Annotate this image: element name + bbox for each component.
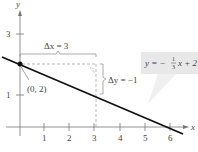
x-tick-label-2: 2 — [67, 133, 72, 143]
x-tick-label-6: 6 — [168, 133, 173, 143]
delta-x-bracket — [20, 51, 96, 57]
step-marker — [90, 68, 96, 72]
x-tick-label-4: 4 — [118, 133, 123, 143]
equation-label: y = − — [144, 58, 166, 68]
delta-y-bracket — [100, 64, 106, 94]
x-axis-label: x — [190, 122, 195, 132]
y-tick-label-1: 1 — [6, 90, 11, 100]
x-tick-label-1: 1 — [42, 133, 47, 143]
x-axis-arrow — [183, 125, 189, 129]
slope-diagram: y x 3 1 1 2 3 4 5 6 Δx = 3 Δy = −1 (0, 2… — [0, 0, 198, 152]
y-axis-arrow — [18, 10, 22, 16]
x-tick-label-3: 3 — [92, 133, 97, 143]
x-tick-label-5: 5 — [143, 133, 148, 143]
delta-y-label: Δy = −1 — [108, 75, 137, 85]
equation-suffix: x + 2 — [177, 58, 198, 68]
y-axis-label: y — [15, 0, 20, 9]
label-pointer — [148, 74, 176, 104]
point-0-2 — [18, 62, 23, 67]
equation-den: 3 — [172, 64, 175, 70]
equation-num: 1 — [172, 56, 175, 62]
point-label: (0, 2) — [27, 84, 47, 94]
y-tick-label-3: 3 — [6, 29, 11, 39]
delta-x-label: Δx = 3 — [44, 41, 69, 51]
